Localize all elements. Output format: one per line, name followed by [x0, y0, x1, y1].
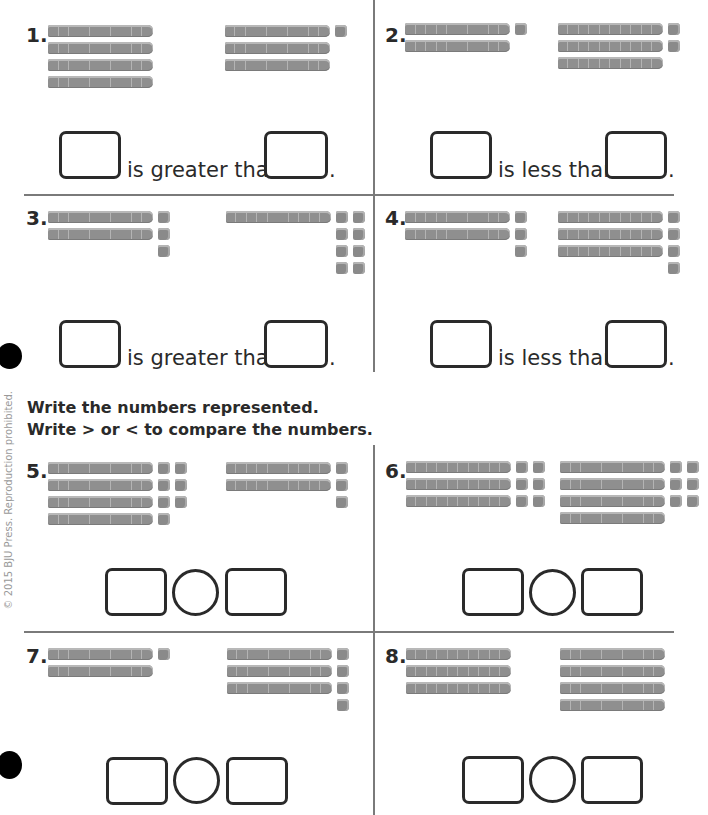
problem-number: 3. — [26, 206, 48, 230]
tens-rod — [406, 648, 511, 660]
tens-rod — [48, 59, 153, 71]
base-ten-blocks-right — [558, 23, 680, 74]
tens-rod — [48, 648, 153, 660]
tens-rod — [405, 23, 510, 35]
base-ten-blocks-right — [560, 648, 665, 716]
problem-number: 6. — [385, 459, 407, 483]
tens-rod — [558, 228, 663, 240]
tens-rod — [558, 211, 663, 223]
period: . — [668, 346, 675, 370]
ones-cube — [158, 462, 170, 474]
ones-cube — [516, 478, 528, 490]
ones-cube — [158, 513, 170, 525]
tens-rod — [227, 682, 332, 694]
base-ten-blocks-left — [405, 211, 527, 262]
answer-box-right[interactable] — [264, 131, 328, 179]
ones-cube — [670, 495, 682, 507]
ones-cube — [515, 211, 527, 223]
answer-box-right[interactable] — [226, 757, 288, 805]
answer-box-right[interactable] — [225, 568, 287, 616]
instruction-line-2: Write > or < to compare the numbers. — [27, 419, 373, 441]
tens-rod — [225, 25, 330, 37]
answer-box-right[interactable] — [605, 131, 667, 179]
divider-vertical-top — [373, 0, 375, 372]
tens-rod — [48, 496, 153, 508]
divider-vertical-bottom — [373, 445, 375, 815]
comparison-symbol-circle[interactable] — [172, 569, 219, 616]
answer-box-left[interactable] — [430, 320, 492, 368]
comparison-symbol-circle[interactable] — [173, 757, 220, 804]
tens-rod — [560, 495, 665, 507]
ones-cube — [687, 478, 699, 490]
problem-number: 5. — [26, 459, 48, 483]
ones-cube — [515, 245, 527, 257]
ones-cube — [668, 211, 680, 223]
comparison-phrase: is greater than — [127, 346, 282, 370]
comparison-symbol-circle[interactable] — [529, 756, 576, 803]
tens-rod — [558, 57, 663, 69]
tens-rod — [48, 665, 153, 677]
base-ten-blocks-left — [48, 211, 170, 262]
ones-cube — [175, 479, 187, 491]
ones-cube — [668, 262, 680, 274]
tens-rod — [405, 228, 510, 240]
ones-cube — [516, 495, 528, 507]
base-ten-blocks-right — [558, 211, 680, 279]
ones-cube — [158, 496, 170, 508]
base-ten-blocks-left — [48, 25, 153, 93]
ones-cube — [353, 245, 365, 257]
ones-cube — [668, 228, 680, 240]
tens-rod — [406, 461, 511, 473]
answer-box-left[interactable] — [59, 320, 121, 368]
answer-box-right[interactable] — [581, 756, 643, 804]
ones-cube — [515, 23, 527, 35]
tens-rod — [406, 495, 511, 507]
ones-cube — [158, 228, 170, 240]
ones-cube — [668, 23, 680, 35]
ones-cube — [337, 648, 349, 660]
ones-cube — [353, 211, 365, 223]
ones-cube — [175, 462, 187, 474]
tens-rod — [560, 461, 665, 473]
answer-box-left[interactable] — [59, 131, 121, 179]
tens-rod — [48, 513, 153, 525]
ones-cube — [336, 211, 348, 223]
answer-box-left[interactable] — [462, 756, 524, 804]
tens-rod — [405, 40, 510, 52]
answer-box-left[interactable] — [462, 568, 524, 616]
base-ten-blocks-right — [227, 648, 349, 716]
ones-cube — [515, 228, 527, 240]
problem-number: 2. — [385, 23, 407, 47]
tens-rod — [225, 42, 330, 54]
base-ten-blocks-left — [48, 648, 170, 682]
tens-rod — [48, 479, 153, 491]
tens-rod — [406, 682, 511, 694]
base-ten-blocks-left — [406, 648, 511, 699]
comparison-phrase: is less than — [498, 158, 616, 182]
hole-punch-dot — [0, 751, 22, 779]
tens-rod — [48, 211, 153, 223]
tens-rod — [406, 478, 511, 490]
ones-cube — [337, 665, 349, 677]
answer-box-left[interactable] — [105, 568, 167, 616]
ones-cube — [336, 496, 348, 508]
answer-box-right[interactable] — [264, 320, 328, 368]
tens-rod — [226, 462, 331, 474]
ones-cube — [533, 495, 545, 507]
instruction-line-1: Write the numbers represented. — [27, 397, 373, 419]
comparison-phrase: is greater than — [127, 158, 282, 182]
tens-rod — [558, 40, 663, 52]
answer-box-right[interactable] — [581, 568, 643, 616]
answer-box-right[interactable] — [605, 320, 667, 368]
tens-rod — [48, 76, 153, 88]
tens-rod — [48, 228, 153, 240]
base-ten-blocks-left — [406, 461, 545, 512]
ones-cube — [687, 461, 699, 473]
ones-cube — [533, 461, 545, 473]
comparison-symbol-circle[interactable] — [529, 569, 576, 616]
answer-box-left[interactable] — [430, 131, 492, 179]
copyright-text: © 2015 BJU Press. Reproduction prohibite… — [3, 430, 14, 610]
ones-cube — [670, 461, 682, 473]
hole-punch-dot — [0, 343, 22, 369]
answer-box-left[interactable] — [106, 757, 168, 805]
